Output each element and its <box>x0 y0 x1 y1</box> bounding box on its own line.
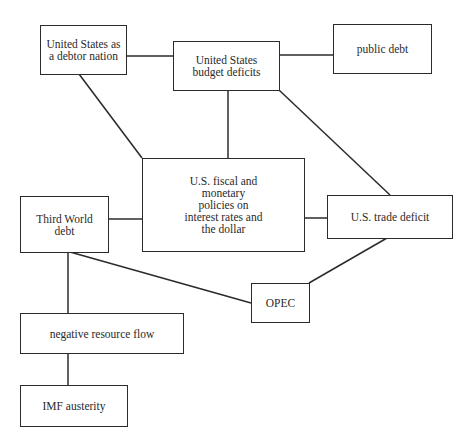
node-opec: OPEC <box>251 283 310 323</box>
node-label: public debt <box>357 43 408 55</box>
node-label: U.S. trade deficit <box>351 211 430 223</box>
node-imf-austerity: IMF austerity <box>20 385 128 427</box>
node-label: United States as a debtor nation <box>46 38 120 62</box>
node-fiscal-policies: U.S. fiscal and monetary policies on int… <box>142 158 305 252</box>
edge-third-world-debt-opec <box>70 252 251 303</box>
node-label: Third World debt <box>36 213 93 237</box>
edge-debtor-nation-fiscal-policies <box>79 74 142 158</box>
node-label: OPEC <box>266 297 295 309</box>
node-label: IMF austerity <box>43 400 106 412</box>
node-label: negative resource flow <box>50 328 155 340</box>
node-negative-flow: negative resource flow <box>20 313 184 354</box>
node-trade-deficit: U.S. trade deficit <box>327 195 453 239</box>
node-budget-deficits: United States budget deficits <box>173 41 280 91</box>
edge-trade-deficit-opec <box>309 238 387 283</box>
node-public-debt: public debt <box>333 24 432 74</box>
node-label: U.S. fiscal and monetary policies on int… <box>185 175 263 235</box>
node-label: United States budget deficits <box>192 54 260 78</box>
node-debtor-nation: United States as a debtor nation <box>40 25 127 75</box>
node-third-world-debt: Third World debt <box>20 196 109 253</box>
